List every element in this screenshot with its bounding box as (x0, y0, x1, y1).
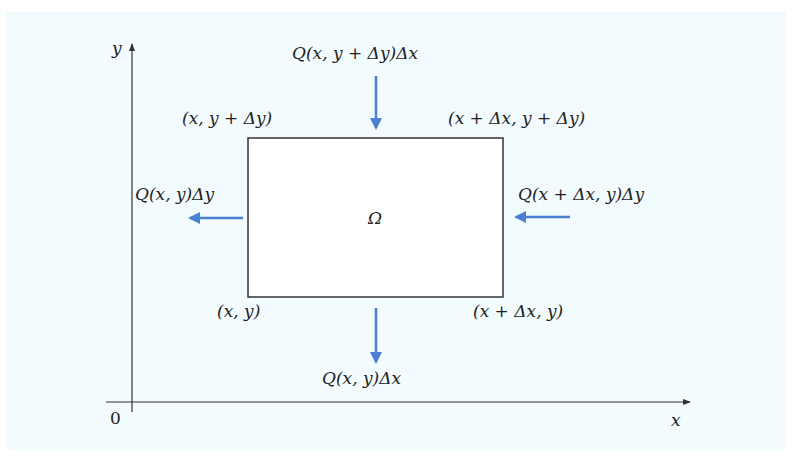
flux-label-bottom: Q(x, y)Δx (322, 370, 401, 387)
flux-label-top: Q(x, y + Δy)Δx (292, 45, 418, 62)
flux-label-left: Q(x, y)Δy (135, 186, 214, 203)
corner-label-top-left: (x, y + Δy) (182, 110, 272, 127)
corner-label-bottom-left: (x, y) (217, 303, 260, 320)
diagram-canvas (0, 0, 799, 463)
x-axis-label: x (671, 412, 681, 429)
y-axis-label: y (112, 40, 122, 57)
origin-label: 0 (110, 410, 121, 427)
flux-label-right: Q(x + Δx, y)Δy (518, 186, 644, 203)
corner-label-bottom-right: (x + Δx, y) (473, 303, 563, 320)
region-label: Ω (368, 210, 382, 227)
corner-label-top-right: (x + Δx, y + Δy) (448, 110, 585, 127)
